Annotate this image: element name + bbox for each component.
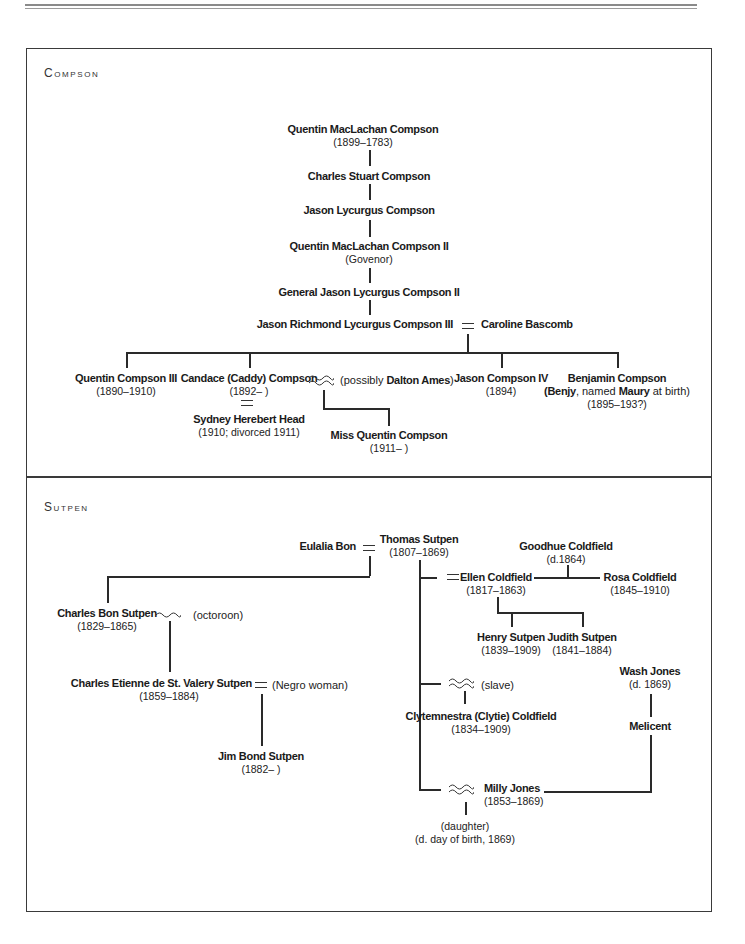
person-goodhue-coldfield: Goodhue Coldfield (d.1864) (519, 540, 612, 566)
sibling-bar (126, 352, 618, 354)
section-title-sutpen: Sutpen (44, 500, 89, 514)
marriage-branch (419, 577, 437, 579)
person-daughter: (daughter) (d. day of birth, 1869) (415, 820, 515, 846)
child-drop (501, 352, 503, 368)
liaison-icon (155, 610, 181, 618)
descent-line (497, 597, 499, 613)
descent-line (464, 691, 466, 704)
person-miss-quentin: Miss Quentin Compson (1911– ) (331, 429, 448, 455)
person-charles-bon: Charles Bon Sutpen (1829–1865) (57, 607, 157, 633)
descent-line (369, 268, 371, 283)
person-melicent: Melicent (629, 720, 671, 733)
person-candace: Candace (Caddy) Compson (1892– ) (181, 372, 318, 398)
descent-line (169, 621, 171, 672)
descent-line (369, 150, 371, 166)
descent-line (650, 694, 652, 717)
liaison-branch (419, 683, 441, 685)
person-general-jason: General Jason Lycurgus Compson II (278, 286, 459, 299)
thomas-trunk-line (419, 560, 421, 790)
sibling-bar (497, 612, 583, 614)
descent-line (323, 408, 389, 410)
descent-line (369, 220, 371, 237)
person-clytie: Clytemnestra (Clytie) Coldfield (1834–19… (406, 710, 557, 736)
descent-line (467, 334, 469, 352)
charles-etienne-dates: (1859–1884) (139, 690, 199, 703)
sibling-bar (534, 577, 600, 579)
liaison-icon (448, 677, 474, 689)
child-drop (617, 352, 619, 368)
person-rosa-coldfield: Rosa Coldfield (1845–1910) (604, 571, 677, 597)
child-drop (511, 612, 513, 627)
person-ellen-coldfield: Ellen Coldfield (1817–1863) (460, 571, 532, 597)
descent-line (369, 556, 371, 576)
header-rule-thin (25, 8, 697, 9)
person-thomas-sutpen: Thomas Sutpen (1807–1869) (380, 533, 459, 559)
descent-line (369, 184, 371, 200)
marriage-icon (241, 400, 253, 406)
person-wash-jones: Wash Jones (d. 1869) (620, 665, 681, 691)
person-negro-woman: (Negro woman) (272, 677, 348, 692)
section-title-compson: Compson (44, 66, 99, 80)
person-charles-stuart: Charles Stuart Compson (308, 170, 430, 183)
person-quentin-maclachan-ii: Quentin MacLachan Compson II (Govenor) (289, 240, 448, 266)
child-drop (582, 612, 584, 627)
liaison-icon (308, 374, 334, 386)
person-henry-sutpen: Henry Sutpen (1839–1909) (477, 631, 545, 657)
person-milly-jones: Milly Jones (1853–1869) (484, 782, 544, 808)
descent-line (323, 390, 325, 409)
marriage-icon (462, 323, 474, 329)
person-slave: (slave) (481, 677, 514, 692)
descent-line (261, 694, 263, 746)
liaison-icon (448, 783, 474, 795)
person-octoroon: (octoroon) (193, 607, 243, 622)
descent-line (650, 735, 652, 792)
person-benjamin: Benjamin Compson (Benjy, named Maury at … (544, 372, 690, 411)
person-charles-etienne: Charles Etienne de St. Valery Sutpen (71, 677, 252, 690)
marriage-icon (447, 574, 459, 580)
person-dalton-ames: (possibly Dalton Ames) (340, 372, 454, 387)
person-judith-sutpen: Judith Sutpen (1841–1884) (547, 631, 616, 657)
person-jason-lycurgus: Jason Lycurgus Compson (303, 204, 434, 217)
person-quentin-maclachan: Quentin MacLachan Compson (1899–1783) (288, 123, 439, 149)
descent-line (567, 565, 569, 577)
child-drop (126, 352, 128, 368)
person-jim-bond: Jim Bond Sutpen (1882– ) (218, 750, 304, 776)
person-jason-iv: Jason Compson IV (1894) (454, 372, 548, 398)
person-quentin-iii: Quentin Compson III (1890–1910) (75, 372, 177, 398)
person-caroline-bascomb: Caroline Bascomb (481, 318, 573, 331)
benjamin-alias: (Benjy, named Maury at birth) (544, 385, 690, 398)
descent-line (369, 300, 371, 315)
descent-line (107, 576, 370, 578)
person-jason-richmond: Jason Richmond Lycurgus Compson III (257, 318, 453, 331)
person-sydney-head: Sydney Herebert Head (1910; divorced 191… (193, 413, 304, 439)
descent-line (465, 802, 467, 815)
marriage-icon (363, 545, 375, 551)
child-drop (249, 352, 251, 368)
descent-line (544, 791, 652, 793)
header-rule (25, 4, 697, 6)
liaison-branch (419, 789, 441, 791)
section-divider (26, 476, 712, 478)
descent-line (388, 408, 390, 426)
person-eulalia-bon: Eulalia Bon (299, 540, 356, 553)
marriage-icon (255, 682, 267, 688)
descent-line (107, 576, 109, 603)
